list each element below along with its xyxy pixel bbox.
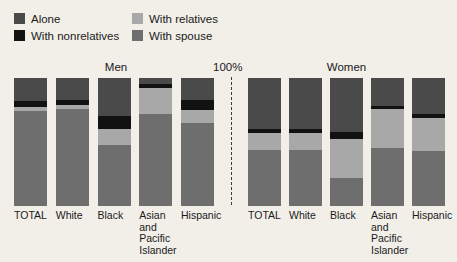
bar-segment-alone [248, 78, 281, 129]
panel-men: Men TOTALWhiteBlackAsian and Pacific Isl… [14, 60, 214, 256]
bar-segment-spouse [412, 151, 445, 206]
labels-women: TOTALWhiteBlackAsian and Pacific Islande… [248, 210, 445, 256]
legend-label-with-relatives: With relatives [149, 13, 218, 25]
bar-segment-alone [181, 78, 214, 100]
bar-segment-nonrelatives [330, 132, 363, 140]
bar-segment-spouse [371, 148, 404, 206]
bar-hispanic [181, 78, 214, 206]
panel-women: Women TOTALWhiteBlackAsian and Pacific I… [248, 60, 445, 256]
bar-label-white: White [56, 210, 89, 256]
legend-swatch-alone [14, 13, 25, 24]
legend-item-with-spouse: With spouse [132, 27, 250, 44]
bar-total [14, 78, 47, 206]
bar-total [248, 78, 281, 206]
bar-label-white: White [289, 210, 322, 256]
bar-segment-relatives [248, 133, 281, 150]
bar-segment-relatives [181, 110, 214, 123]
bar-label-black: Black [98, 210, 131, 256]
bar-asian [139, 78, 172, 206]
bar-label-hispanic: Hispanic [181, 210, 214, 256]
bar-segment-relatives [371, 109, 404, 149]
bar-label-total: TOTAL [14, 210, 47, 256]
bar-segment-alone [98, 78, 131, 116]
bar-segment-alone [330, 78, 363, 132]
bar-segment-alone [14, 78, 47, 101]
legend-label-with-nonrelatives: With nonrelatives [31, 30, 119, 42]
bar-segment-relatives [289, 133, 322, 150]
bar-segment-relatives [330, 139, 363, 177]
bar-segment-spouse [139, 114, 172, 206]
legend-label-with-spouse: With spouse [149, 30, 212, 42]
bar-white [289, 78, 322, 206]
bar-segment-spouse [330, 178, 363, 206]
bar-segment-alone [412, 78, 445, 114]
bar-white [56, 78, 89, 206]
bar-hispanic [412, 78, 445, 206]
labels-men: TOTALWhiteBlackAsian and Pacific Islande… [14, 210, 214, 256]
bar-asian [371, 78, 404, 206]
axis-max-label: 100% [213, 60, 242, 74]
bar-segment-alone [56, 78, 89, 100]
bar-segment-nonrelatives [98, 116, 131, 129]
legend: Alone With relatives With nonrelatives W… [14, 10, 254, 44]
panel-divider [231, 77, 232, 205]
bar-segment-alone [289, 78, 322, 129]
legend-item-with-relatives: With relatives [132, 10, 250, 27]
bar-label-black: Black [330, 210, 363, 256]
bar-segment-spouse [181, 123, 214, 206]
panel-title-men: Men [14, 60, 214, 74]
legend-swatch-with-relatives [132, 13, 143, 24]
legend-swatch-with-nonrelatives [14, 30, 25, 41]
panel-title-women: Women [248, 60, 445, 74]
bar-segment-relatives [139, 88, 172, 114]
bar-black [98, 78, 131, 206]
legend-item-alone: Alone [14, 10, 132, 27]
bars-men [14, 78, 214, 206]
bar-segment-spouse [56, 109, 89, 206]
bars-women [248, 78, 445, 206]
legend-label-alone: Alone [31, 13, 60, 25]
bar-segment-relatives [98, 129, 131, 144]
bar-label-asian: Asian and Pacific Islander [371, 210, 404, 256]
legend-swatch-with-spouse [132, 30, 143, 41]
bar-label-asian: Asian and Pacific Islander [139, 210, 172, 256]
bar-segment-spouse [98, 145, 131, 206]
bar-segment-spouse [248, 150, 281, 206]
bar-segment-spouse [289, 150, 322, 206]
bar-segment-relatives [412, 118, 445, 151]
legend-item-with-nonrelatives: With nonrelatives [14, 27, 132, 44]
bar-label-total: TOTAL [248, 210, 281, 256]
bar-black [330, 78, 363, 206]
bar-segment-nonrelatives [181, 100, 214, 110]
bar-segment-spouse [14, 111, 47, 206]
bar-label-hispanic: Hispanic [412, 210, 445, 256]
bar-segment-alone [371, 78, 404, 106]
